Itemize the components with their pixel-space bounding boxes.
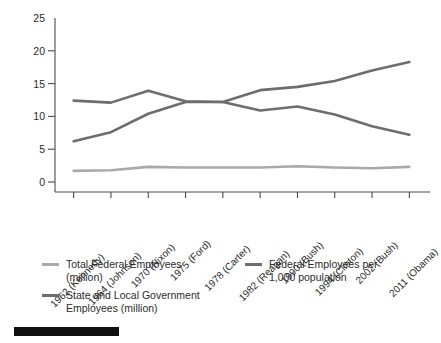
legend-swatch-icon	[42, 294, 59, 297]
legend-item: State and Local Government Employees (mi…	[42, 289, 242, 314]
legend-label: State and Local Government Employees (mi…	[66, 289, 200, 314]
legend-label: Federal Employees per 1,000 population	[269, 258, 378, 283]
chart-figure: 0510152025 1962 (Kennedy)1964 (Johnson)1…	[0, 0, 441, 343]
legend-item: Federal Employees per 1,000 population	[245, 258, 435, 283]
legend-column-right: Federal Employees per 1,000 population	[245, 258, 435, 289]
legend-item: Total Federal Employees (million)	[42, 258, 242, 283]
series-line-0	[74, 166, 410, 171]
legend-swatch-icon	[42, 263, 59, 266]
x-axis-label-group: 1962 (Kennedy)1964 (Johnson)1970 (Nixon)…	[0, 0, 441, 80]
y-axis-tick-label: 0	[39, 176, 45, 188]
legend-column-left: Total Federal Employees (million)State a…	[42, 258, 242, 320]
y-axis-tick-label: 10	[33, 110, 45, 122]
y-axis-tick-label: 5	[39, 143, 45, 155]
legend-label: Total Federal Employees (million)	[66, 258, 182, 283]
footer-black-bar	[14, 327, 119, 336]
legend-swatch-icon	[245, 263, 262, 266]
x-axis-ticks	[74, 192, 410, 198]
